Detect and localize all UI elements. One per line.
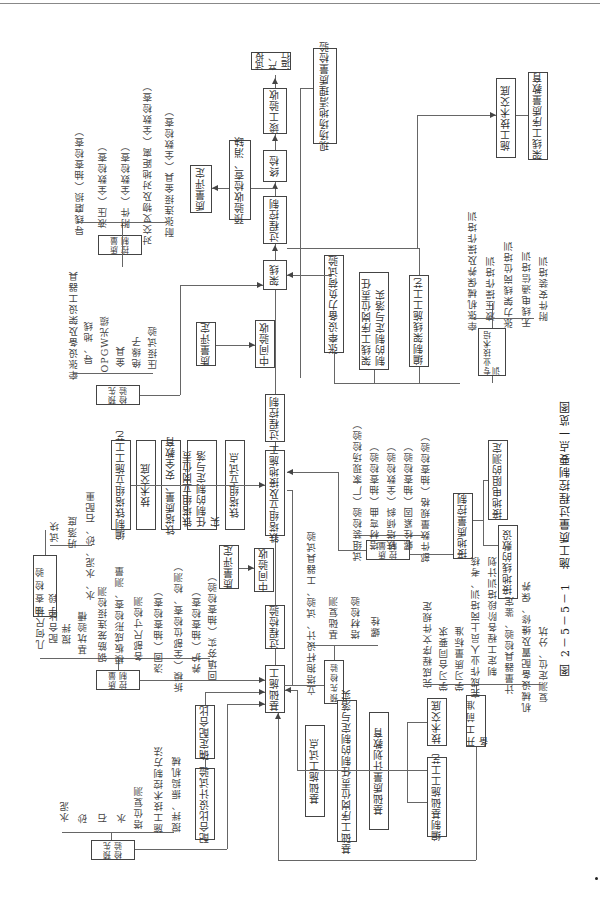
foundation-precheck-item: 施工技术控制方法 xyxy=(152,745,166,833)
foundation-qc-item: 搅拌 xyxy=(60,622,74,644)
connector-line xyxy=(334,353,335,383)
arrow-right-icon xyxy=(259,482,265,488)
foundation-prep-box-0: 基础施工试点 xyxy=(305,725,325,817)
precheck-item: 牵张设备及架设工器具 xyxy=(67,270,81,380)
connector-line xyxy=(135,849,227,850)
connector-line xyxy=(300,88,313,89)
foundation-precheck-item: 水泥 xyxy=(58,800,72,822)
connector-line xyxy=(45,530,46,555)
connector-line xyxy=(227,704,228,849)
connector-line xyxy=(473,520,483,521)
stringing-responsibility-box: 架线工序岗位责任制的制定与落实 xyxy=(359,272,389,370)
training-item: 张力架线岗位培训 xyxy=(502,240,516,328)
arrow-left-icon xyxy=(212,185,218,191)
training-item: 牵张机械保养及操作培训 xyxy=(466,210,480,331)
connector-line xyxy=(492,376,493,383)
pre-construction-item: 计量器具检验、鉴定 xyxy=(503,595,517,694)
connector-line xyxy=(483,480,484,545)
bracket-line xyxy=(310,645,378,646)
pre-construction-item: 学习合同要求 xyxy=(437,625,451,691)
foundation-qc-item: 模板成形检查、测量 xyxy=(113,565,127,664)
arrow-up-icon xyxy=(272,135,278,141)
pre-construction-item: 机械设备配置及维修、保养 xyxy=(520,580,534,712)
foundation-precheck-box: 预先检验 xyxy=(91,840,135,860)
tower-qc-item: 铁塔倾斜（全数检验） xyxy=(385,440,399,550)
arrow-up-icon xyxy=(272,245,278,251)
connector-line xyxy=(476,747,477,860)
connector-line xyxy=(374,370,375,383)
completion-acceptance-box: 竣工验收 xyxy=(263,88,287,134)
quality-rating-lower-box: 质量评定 xyxy=(219,545,239,589)
connector-line xyxy=(278,860,476,861)
training-box: 专业技术培训 xyxy=(478,328,506,376)
stringing-box: 架线 xyxy=(263,260,287,290)
sampling-item: 试块 xyxy=(48,520,62,542)
pre-construction-item: 复测定位、分坑 xyxy=(537,625,551,702)
connector-line xyxy=(287,275,332,276)
connector-line xyxy=(419,248,420,275)
qc-item: 导线磨损（抽查检查） xyxy=(73,125,87,235)
interim-acceptance-2-box: 中间验收 xyxy=(255,320,275,368)
foundation-qc-item: 养护（抽查检查） xyxy=(190,585,204,673)
connector-line xyxy=(334,645,335,660)
qc-item: 对交叉物及对地距离（全数检查） xyxy=(141,80,155,245)
connector-line xyxy=(483,545,498,546)
precheck-item: OPGW光缆 xyxy=(98,315,112,373)
tower-precheck-item: 基础复测 xyxy=(327,595,341,639)
connector-line xyxy=(417,115,496,116)
connector-line xyxy=(278,713,279,860)
foundation-qc-item: 浇固（抽查检查） xyxy=(152,585,166,673)
trial-operation-label: 试投产、运行 xyxy=(252,52,291,70)
connector-line xyxy=(284,685,324,686)
stringing-precheck-box: 预先检验 xyxy=(96,385,140,405)
foundation-prep-box-4: 编制基础施工工艺 xyxy=(427,757,447,837)
training-item: 液压操作培训 xyxy=(484,255,498,321)
arrow-right-icon xyxy=(259,689,265,695)
connector-line xyxy=(334,383,460,384)
interim-acceptance-1-box: 中间验收 xyxy=(254,548,274,592)
foundation-prep-box-2: 基础质量计划教育 xyxy=(369,712,389,830)
foundation-precheck-item: 石 xyxy=(96,812,110,823)
foundation-qc-item: 基坑验槽 xyxy=(76,610,90,654)
training-item: 附件安装培训 xyxy=(537,255,551,321)
connector-line xyxy=(180,285,181,395)
connector-line xyxy=(287,472,338,473)
trial-operation-box: 试投产、运行 xyxy=(251,52,291,70)
sampling-item: 坍落度 xyxy=(66,515,80,548)
connector-line xyxy=(417,115,418,248)
process-control-2-box: 过程控制 xyxy=(263,196,287,244)
grounding-wire-box: 接地线的敷设 xyxy=(498,525,518,599)
connector-line xyxy=(410,554,453,555)
connector-line xyxy=(205,692,265,693)
connector-line xyxy=(407,722,408,802)
page-dot xyxy=(595,877,598,880)
final-inspection-box: 终检 xyxy=(263,150,287,182)
connector-line xyxy=(287,248,419,249)
pre-construction-item: 学习质量标准 xyxy=(453,625,467,691)
grounding-qc-box: 接地质量控制 xyxy=(453,493,473,559)
connector-line xyxy=(287,490,292,491)
foundation-qc-item: 钢筋笼连接检测 xyxy=(96,585,110,662)
connector-line xyxy=(180,285,263,286)
foundation-precheck-item: 水 xyxy=(115,812,129,823)
load-test-box: 张牵设备力负荷试验 xyxy=(324,255,344,353)
arrow-left-icon xyxy=(287,469,293,475)
connector-line xyxy=(407,722,427,723)
connector-line xyxy=(300,88,301,378)
pre-construction-box: 开工前准备 xyxy=(466,695,486,747)
arrow-right-icon xyxy=(257,282,263,288)
arrow-right-icon xyxy=(248,565,254,571)
connector-line xyxy=(205,692,206,705)
connector-line xyxy=(516,115,528,116)
qc-item: 耐张连接金具（全数检查） xyxy=(163,105,177,237)
foundation-prep-box-1: 基础工序岗位责任制的制定与落实 xyxy=(337,700,357,842)
foundation-qc-item: 拆模（全部位检查、检测） xyxy=(172,560,186,692)
tower-precheck-item: 立塔抱杆设计、试验、工器具试验 xyxy=(305,530,319,695)
tower-prep-box-0: 编制铁塔组立施工工艺 xyxy=(111,440,131,530)
quality-rating-middle-box: 质量评定 xyxy=(196,322,216,366)
arrow-right-icon xyxy=(259,701,265,707)
mix-design-test-box: 配合比设计试验 xyxy=(195,768,215,840)
foundation-prep-box-3: 技术交底 xyxy=(427,698,447,746)
arrow-left-icon xyxy=(285,687,291,693)
connector-line xyxy=(140,680,265,681)
